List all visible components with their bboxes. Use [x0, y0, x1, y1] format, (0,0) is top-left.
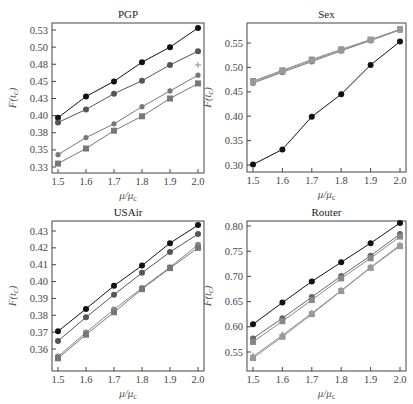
x-tick-label: 1.6: [276, 374, 289, 385]
data-point: [83, 93, 89, 99]
data-point: [279, 146, 285, 152]
y-tick-label: 0.36: [30, 344, 48, 355]
data-point: [195, 25, 201, 31]
y-tick-label: 0.43: [30, 226, 48, 237]
data-point: [250, 355, 256, 361]
y-tick-label: 0.40: [30, 276, 48, 287]
data-point: [139, 113, 145, 119]
data-point: [279, 300, 285, 306]
data-point: [195, 80, 201, 86]
x-tick-label: 1.5: [51, 176, 64, 187]
data-point: [111, 91, 117, 97]
data-point: [279, 318, 285, 324]
y-tick-label: 0.70: [225, 271, 243, 282]
data-point: [309, 58, 315, 64]
subplot-title: PGP: [118, 8, 138, 20]
y-tick-label: 0.35: [30, 144, 48, 155]
data-point: [167, 240, 173, 246]
series-line: [58, 234, 198, 341]
y-tick-label: 0.38: [30, 310, 48, 321]
subplot-sex: Sex0.300.350.400.450.500.551.51.61.71.81…: [201, 8, 407, 202]
y-tick-label: 0.45: [30, 76, 48, 87]
data-point: [338, 288, 344, 294]
series-3: [250, 27, 403, 86]
y-axis-label: F(tc): [201, 285, 215, 307]
x-tick-label: 1.9: [163, 176, 176, 187]
y-tick-label: 0.55: [225, 38, 243, 49]
series-line: [253, 223, 400, 324]
data-point: [83, 106, 89, 112]
data-point: [397, 243, 403, 249]
series-line: [58, 225, 198, 331]
data-point: [55, 355, 61, 361]
data-point: [111, 78, 117, 84]
data-point: [111, 292, 117, 298]
data-point: [83, 332, 89, 338]
x-axis-label: μ/μc: [118, 387, 137, 401]
data-point: [309, 311, 315, 317]
y-axis-label: F(tc): [6, 87, 20, 109]
series-2: [55, 231, 201, 344]
data-point: [55, 119, 61, 125]
series-2: [250, 231, 403, 341]
subplot-title: Router: [312, 206, 342, 218]
data-point: [83, 306, 89, 312]
series-line: [58, 83, 198, 163]
series-line: [58, 28, 198, 118]
series-1: [250, 39, 403, 168]
x-tick-label: 1.8: [335, 175, 348, 186]
subplot-router: Router0.550.600.650.700.750.801.51.61.71…: [201, 206, 407, 401]
data-point: [139, 59, 145, 65]
data-point: [250, 339, 256, 345]
axes-frame: [52, 23, 204, 173]
y-tick-label: 0.80: [225, 221, 243, 232]
data-point: [279, 334, 285, 340]
data-point: [139, 286, 145, 292]
data-point: [139, 263, 145, 269]
y-tick-label: 0.41: [30, 259, 48, 270]
data-point: [139, 270, 145, 276]
subplot-title: USAir: [114, 206, 143, 218]
x-axis-label: μ/μc: [317, 387, 336, 401]
y-tick-label: 0.45: [225, 86, 243, 97]
x-tick-label: 1.7: [107, 374, 120, 385]
y-tick-label: 0.43: [30, 93, 48, 104]
series-4: [55, 80, 201, 166]
data-point: [250, 321, 256, 327]
data-point: [111, 309, 117, 315]
series-2: [55, 48, 201, 125]
x-tick-label: 1.6: [276, 175, 289, 186]
y-tick-label: 0.30: [225, 160, 243, 171]
x-tick-label: 1.7: [305, 374, 318, 385]
x-tick-label: 1.7: [305, 175, 318, 186]
y-axis-label: F(tc): [201, 87, 215, 109]
x-tick-label: 1.8: [135, 374, 148, 385]
data-point: [397, 220, 403, 226]
y-tick-label: 0.60: [225, 321, 243, 332]
subplot-usair: USAir0.360.370.380.390.400.410.420.431.5…: [6, 206, 205, 401]
x-axis-label: μ/μc: [118, 189, 137, 203]
y-tick-label: 0.37: [30, 327, 48, 338]
data-point: [167, 44, 173, 50]
data-point: [111, 121, 116, 126]
x-tick-label: 1.5: [51, 374, 64, 385]
data-point: [368, 62, 374, 68]
x-tick-label: 2.0: [191, 176, 204, 187]
data-point: [139, 78, 145, 84]
series-5: [250, 243, 403, 361]
data-point: [368, 240, 374, 246]
data-point: [279, 68, 285, 74]
data-point: [195, 245, 201, 251]
data-point: [167, 96, 173, 102]
series-3: [55, 73, 200, 158]
series-4: [55, 245, 201, 361]
data-point: [83, 314, 89, 320]
x-tick-label: 1.8: [135, 176, 148, 187]
y-tick-label: 0.40: [30, 110, 48, 121]
x-axis-label: μ/μc: [317, 188, 336, 202]
data-point: [338, 91, 344, 97]
series-line: [58, 248, 198, 358]
series-line: [253, 42, 400, 165]
data-point: [397, 26, 403, 32]
data-point: [195, 73, 200, 78]
